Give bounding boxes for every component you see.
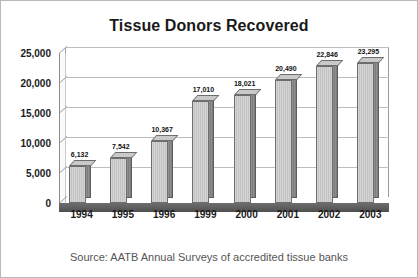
bar-top-face (275, 74, 302, 80)
bar: 10,367 (151, 135, 173, 203)
bar-value-label: 20,490 (275, 65, 296, 72)
x-axis-label: 2002 (318, 209, 340, 220)
bar: 17,010 (192, 95, 214, 203)
bar: 23,295 (357, 57, 379, 203)
x-axis-label: 1995 (112, 209, 134, 220)
gridline (65, 47, 389, 48)
bar-front-face (192, 101, 209, 203)
bar-front-face (69, 166, 86, 203)
chart-figure: Tissue Donors Recovered 05,00010,00015,0… (0, 0, 418, 278)
bar-value-label: 22,846 (316, 51, 337, 58)
bar-top-face (151, 135, 178, 141)
x-axis-label: 1996 (153, 209, 175, 220)
x-axis-label: 1994 (71, 209, 93, 220)
x-axis: 19941995199619992000200120022003 (59, 209, 389, 223)
y-axis-label: 20,000 (20, 78, 51, 89)
bar-value-label: 7,542 (112, 143, 130, 150)
bar-value-label: 18,021 (234, 80, 255, 87)
plot-area: 05,00010,00015,00020,00025,000 6,1327,54… (59, 53, 389, 203)
x-axis-label: 2000 (236, 209, 258, 220)
bar-value-label: 10,367 (151, 126, 172, 133)
bar-value-label: 23,295 (358, 48, 379, 55)
bar: 22,846 (316, 60, 338, 203)
bar-top-face (69, 160, 96, 166)
bar: 6,132 (69, 160, 91, 203)
bar-top-face (316, 60, 343, 66)
chart-title: Tissue Donors Recovered (1, 17, 417, 35)
bar: 18,021 (234, 89, 256, 203)
bar-front-face (151, 141, 168, 203)
x-axis-label: 1999 (194, 209, 216, 220)
bar-top-face (234, 89, 261, 95)
x-axis-label: 2001 (277, 209, 299, 220)
bar-top-face (110, 152, 137, 158)
bar-top-face (357, 57, 384, 63)
source-caption: Source: AATB Annual Surveys of accredite… (1, 251, 417, 263)
bar-series: 6,1327,54210,36717,01018,02120,49022,846… (59, 53, 389, 203)
bar-value-label: 17,010 (193, 86, 214, 93)
bar-front-face (234, 95, 251, 203)
bar: 7,542 (110, 152, 132, 203)
bar-front-face (357, 63, 374, 203)
y-axis-label: 0 (45, 198, 51, 209)
bar: 20,490 (275, 74, 297, 203)
y-axis-label: 15,000 (20, 108, 51, 119)
bar-top-face (192, 95, 219, 101)
x-axis-label: 2003 (359, 209, 381, 220)
y-axis-label: 25,000 (20, 48, 51, 59)
bar-front-face (275, 80, 292, 203)
bar-value-label: 6,132 (71, 151, 89, 158)
bar-front-face (316, 66, 333, 203)
bar-front-face (110, 158, 127, 203)
y-axis-label: 5,000 (26, 168, 51, 179)
y-axis-label: 10,000 (20, 138, 51, 149)
